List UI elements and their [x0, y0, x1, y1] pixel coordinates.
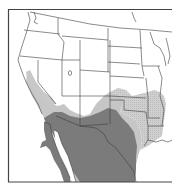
map-canvas: [0, 0, 172, 188]
range-map: [0, 0, 172, 188]
